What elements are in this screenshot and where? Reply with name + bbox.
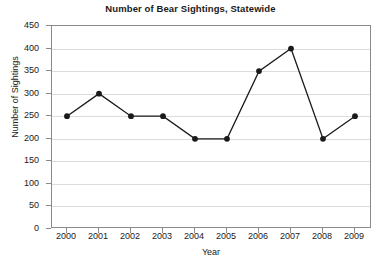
y-axis-tick-mark (46, 93, 51, 94)
y-axis-tick-mark (46, 48, 51, 49)
x-axis-tick-mark (98, 228, 99, 233)
data-point-marker (288, 46, 294, 52)
plot-area (51, 25, 371, 228)
y-axis-tick-label: 200 (24, 133, 39, 143)
y-axis-tick-label: 50 (29, 200, 39, 210)
x-axis-tick-mark (290, 228, 291, 233)
y-axis-tick-mark (46, 205, 51, 206)
x-axis-title: Year (51, 247, 371, 257)
data-point-marker (64, 113, 70, 119)
chart-title: Number of Bear Sightings, Statewide (0, 3, 381, 14)
x-axis-tick-mark (66, 228, 67, 233)
data-point-marker (256, 68, 262, 74)
x-axis-tick-mark (130, 228, 131, 233)
y-axis-tick-label: 250 (24, 110, 39, 120)
x-axis-tick-mark (354, 228, 355, 233)
y-axis-tick-label: 150 (24, 155, 39, 165)
series-line (67, 49, 355, 139)
y-axis-tick-mark (46, 160, 51, 161)
data-point-marker (192, 136, 198, 142)
data-point-marker (96, 91, 102, 97)
y-axis-tick-mark (46, 183, 51, 184)
y-axis-tick-label: 400 (24, 43, 39, 53)
x-axis-tick-mark (162, 228, 163, 233)
y-axis-tick-labels: 050100150200250300350400450 (0, 25, 47, 228)
x-axis-tick-mark (258, 228, 259, 233)
chart-figure: Number of Bear Sightings, Statewide Numb… (0, 0, 381, 267)
y-axis-tick-label: 0 (34, 223, 39, 233)
y-axis-tick-mark (46, 228, 51, 229)
y-axis-tick-label: 450 (24, 20, 39, 30)
y-axis-tick-label: 300 (24, 88, 39, 98)
data-point-marker (160, 113, 166, 119)
x-axis-tick-mark (322, 228, 323, 233)
y-axis-tick-mark (46, 25, 51, 26)
line-series (52, 26, 372, 229)
data-point-marker (128, 113, 134, 119)
y-axis-tick-mark (46, 70, 51, 71)
y-axis-tick-label: 100 (24, 178, 39, 188)
x-axis-tick-mark (226, 228, 227, 233)
y-axis-tick-mark (46, 138, 51, 139)
x-axis-tick-labels: 2000200120022003200420052006200720082009 (51, 231, 371, 245)
y-axis-tick-mark (46, 115, 51, 116)
data-point-marker (352, 113, 358, 119)
data-point-marker (224, 136, 230, 142)
data-point-marker (320, 136, 326, 142)
x-axis-tick-mark (194, 228, 195, 233)
y-axis-tick-label: 350 (24, 65, 39, 75)
